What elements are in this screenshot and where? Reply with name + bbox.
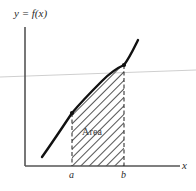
area-hatch-fill: [72, 65, 124, 166]
area-label: Area: [82, 127, 102, 137]
curve-point-marker-b: [122, 63, 126, 67]
x-axis-label: x: [182, 160, 187, 171]
y-axis-function-label: y = f(x): [14, 8, 47, 19]
upper-bound-label: b: [121, 170, 126, 180]
curve-point-marker-a: [70, 111, 74, 115]
area-under-curve-figure: y = f(x) x a b Area: [0, 0, 196, 191]
horizontal-guide-line: [0, 70, 196, 77]
y-axis-function-text: y = f(x): [14, 7, 47, 19]
shaded-area-region: [72, 65, 124, 166]
figure-canvas: [0, 0, 196, 191]
lower-bound-label: a: [69, 170, 74, 180]
